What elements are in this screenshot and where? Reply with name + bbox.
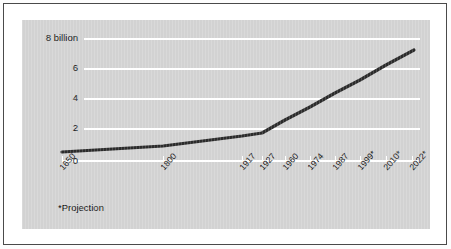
population-line-series [22, 20, 430, 229]
projection-footnote: *Projection [58, 202, 104, 213]
plot-panel: 8 billion 6 4 2 0 1650 1800 1917 19 [22, 20, 430, 229]
chart-screenshot: 8 billion 6 4 2 0 1650 1800 1917 19 [0, 0, 451, 249]
plot-area: 8 billion 6 4 2 0 1650 1800 1917 19 [22, 20, 430, 229]
